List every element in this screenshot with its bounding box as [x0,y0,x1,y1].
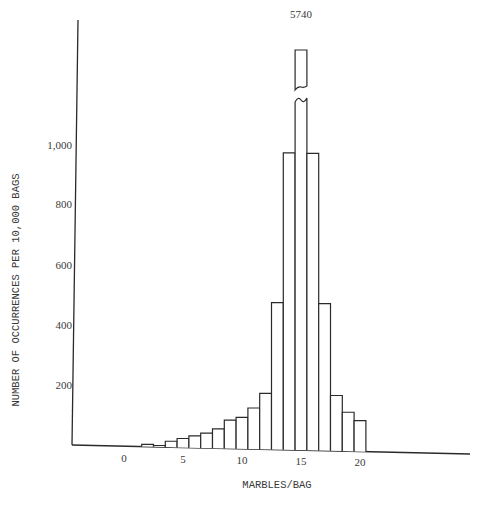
x-tick-labels: 05101520 [121,452,366,468]
bar-20 [354,421,366,452]
bar-15 [295,98,307,450]
bar-8 [213,429,225,449]
y-tick-label: 800 [56,198,73,210]
y-tick-labels: 2004006008001,000 [47,139,72,391]
bar-9 [224,420,236,449]
histogram-chart: 5740 2004006008001,000 05101520 MARBLES/… [0,0,489,508]
x-tick-label: 20 [355,456,367,468]
bar-3 [154,445,166,447]
bar-4 [165,441,177,447]
y-axis-line [72,20,78,445]
truncated-bar-top [295,50,307,90]
bar-14 [283,153,295,450]
y-tick-label: 600 [56,259,73,271]
bar-15-top [295,50,307,90]
x-tick-label: 10 [237,454,249,466]
y-tick-label: 200 [56,379,73,391]
y-tick-label: 1,000 [47,139,72,151]
bar-16 [307,153,319,450]
bar-2 [142,444,154,447]
bar-17 [319,304,331,451]
bar-12 [260,393,272,449]
bar-13 [272,303,284,450]
y-tick-label: 400 [56,319,73,331]
x-tick-label: 15 [296,455,308,467]
bar-19 [342,412,354,451]
bar-7 [201,433,213,448]
bar-11 [248,408,260,449]
bar-18 [331,395,343,451]
bars [142,98,366,452]
x-axis-title: MARBLES/BAG [242,479,311,491]
x-tick-label: 5 [180,453,186,465]
bar-5 [177,439,189,448]
y-axis-title: NUMBER OF OCCURRENCES PER 10,000 BAGS [10,173,22,406]
bar-6 [189,436,201,448]
bar-10 [236,417,248,449]
x-tick-label: 0 [121,452,127,464]
bar-value-annotation: 5740 [290,8,313,20]
